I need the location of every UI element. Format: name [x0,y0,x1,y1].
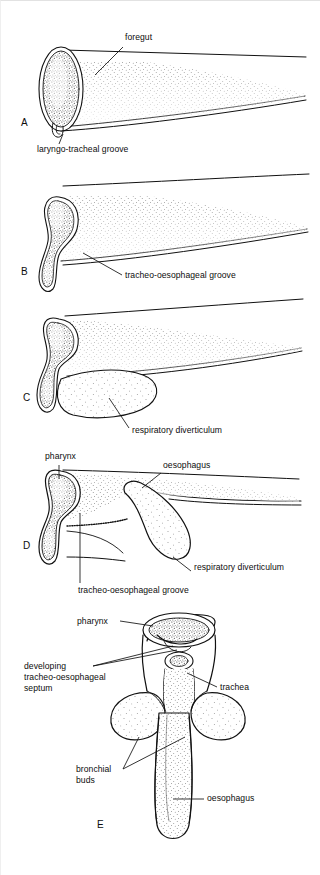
panel-letter-a: A [21,117,28,128]
panel-c-artwork [37,299,303,418]
label-oesophagus-d: oesophagus [163,460,210,471]
label-pharynx-e: pharynx [77,616,108,627]
label-respiratory-diverticulum-d: respiratory diverticulum [194,562,284,573]
panel-letter-c: C [23,392,30,403]
panel-letter-e: E [97,819,104,830]
panel-letter-d: D [23,540,30,551]
label-bronchial-buds-line1: bronchial [76,764,111,775]
panel-e-artwork [111,613,245,839]
panel-letter-b: B [21,266,28,277]
label-developing-septum-line1: developing [24,661,66,672]
label-tracheo-oesophageal-groove-b: tracheo-oesophageal groove [125,270,236,281]
panel-a-artwork [39,47,306,137]
label-pharynx-d: pharynx [45,451,76,462]
label-laryngo-tracheal-groove: laryngo-tracheal groove [37,144,128,155]
label-developing-septum-line2: tracheo-oesophageal [24,672,106,683]
label-bronchial-buds-line2: buds [76,775,95,786]
label-respiratory-diverticulum-c: respiratory diverticulum [132,425,222,436]
panel-d-artwork [39,470,301,564]
embryology-figure: foregut laryngo-tracheal groove A trache… [0,0,320,875]
label-oesophagus-e: oesophagus [207,793,254,804]
label-tracheo-oesophageal-groove-d: tracheo-oesophageal groove [78,585,189,596]
figure-artwork [1,1,320,875]
label-trachea-e: trachea [220,682,249,693]
label-developing-septum-line3: septum [24,683,52,694]
label-foregut: foregut [125,32,152,43]
